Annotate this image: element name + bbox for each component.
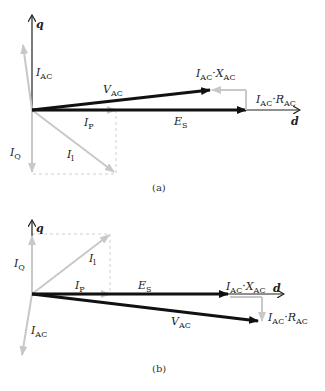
il-label: Il [88, 252, 96, 267]
vac-label: VAC [171, 315, 191, 330]
caption-a: (a) [152, 182, 166, 193]
il-vector [32, 235, 109, 294]
caption-b: (b) [152, 363, 166, 374]
iac-rac-label: IAC·RAC [267, 311, 308, 326]
es-label: ES [173, 115, 188, 130]
il-label: Il [66, 148, 74, 163]
iac-xac-label: IAC·XAC [225, 280, 266, 295]
iac-label: IAC [30, 324, 47, 339]
vac-vector [32, 294, 258, 321]
q-axis-label: q [36, 18, 44, 31]
iac-vector [23, 45, 32, 110]
d-axis-label: d [273, 282, 281, 295]
iac-rac-label: IAC·RAC [255, 93, 296, 108]
vac-label: VAC [103, 83, 123, 98]
iac-label: IAC [35, 66, 52, 81]
iq-label: IQ [13, 257, 25, 272]
ip-label: IP [74, 279, 85, 294]
iq-label: IQ [9, 146, 21, 161]
diagram-b: q d IQ Il IP ES IAC·XAC IAC·RAC VAC IAC … [13, 220, 308, 374]
q-axis-label: q [36, 222, 44, 235]
diagram-a: q d IAC VAC IAC·XAC IAC·RAC ES IP IQ Il … [9, 15, 300, 193]
es-label: ES [137, 279, 152, 294]
ip-label: IP [83, 116, 94, 131]
phasor-diagrams: q d IAC VAC IAC·XAC IAC·RAC ES IP IQ Il … [0, 0, 325, 391]
iac-xac-label: IAC·XAC [195, 67, 236, 82]
d-axis-label: d [291, 115, 299, 128]
